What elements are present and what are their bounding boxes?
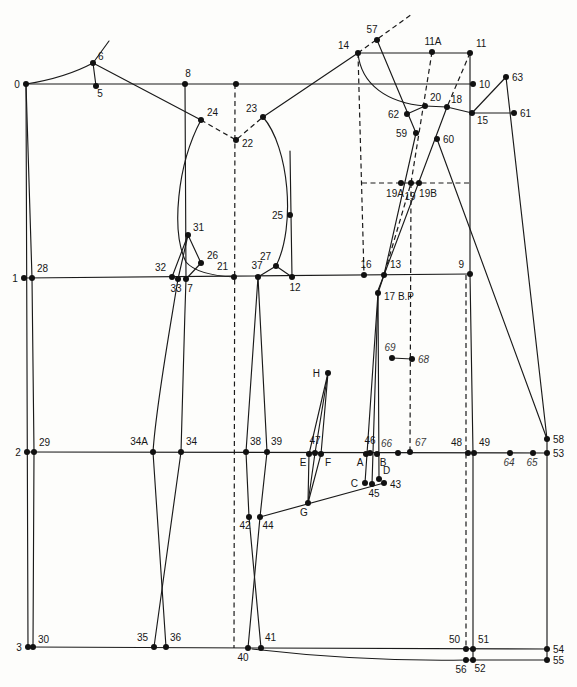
point-40-label: 40 [237, 652, 249, 663]
line-segment-69-68 [392, 358, 412, 359]
point-57-dot [374, 37, 380, 43]
point-29-dot [31, 449, 37, 455]
point-66-label: 66 [381, 438, 393, 449]
line-bust-line-1-9 [24, 274, 470, 278]
line-seam-44-40 [248, 517, 260, 648]
point-0-dot [23, 81, 29, 87]
point-C-dot [362, 480, 368, 486]
point-12-label: 12 [289, 282, 301, 293]
line-line-44-G-43 [260, 483, 384, 517]
point-50-label: 50 [449, 634, 461, 645]
point-5-label: 5 [97, 88, 103, 99]
point-25-dot [287, 212, 293, 218]
point-20-dot [422, 103, 428, 109]
point-1-dot [21, 275, 27, 281]
point-8-label: 8 [185, 68, 191, 79]
point-39-dot [264, 449, 270, 455]
point-48-dot [465, 450, 471, 456]
point-37-dot [255, 274, 261, 280]
point-45-label: 45 [368, 488, 380, 499]
point-30-label: 30 [38, 634, 50, 645]
line-shoulder-23-14 [263, 53, 358, 117]
point-45-dot [369, 481, 375, 487]
point-7-label: 7 [187, 283, 193, 294]
dashed-line-dart-dashed-24-22-23 [201, 117, 263, 140]
point-62-label: 62 [388, 109, 400, 120]
point-38-dot [243, 449, 249, 455]
point-2-label: 2 [15, 447, 21, 458]
point-A-label: A [357, 457, 364, 468]
point-G-label: G [300, 507, 308, 518]
point-35-dot [151, 644, 157, 650]
point-50-dot [463, 646, 469, 652]
point-30-dot [30, 644, 36, 650]
point-19B-dot [416, 180, 422, 186]
point-61-dot [511, 110, 517, 116]
point-35-label: 35 [137, 632, 149, 643]
line-dart-31-26 [188, 235, 201, 263]
point-41-dot [258, 645, 264, 651]
point-42-label: 42 [239, 520, 251, 531]
point-19-label: 19 [404, 191, 416, 202]
point-57-label: 57 [366, 24, 378, 35]
point-34A-label: 34A [130, 436, 148, 447]
point-16-label: 16 [360, 259, 372, 270]
point-8-dot [182, 81, 188, 87]
point-18-dot [444, 104, 450, 110]
point-0-label: 0 [14, 79, 20, 90]
point-C-label: C [351, 478, 358, 489]
point-52-label: 52 [474, 663, 486, 674]
point-41-label: 41 [265, 632, 277, 643]
line-dart-17-D [378, 293, 379, 479]
point-14-dot [355, 50, 361, 56]
line-segment-6-5 [93, 63, 96, 86]
point-38-label: 38 [250, 436, 262, 447]
dashed-line-center-dashed-vertical-22-21 [234, 84, 235, 648]
point-E-dot [306, 451, 312, 457]
point-55-dot [544, 657, 550, 663]
line-back-neck-curve-0-6 [26, 63, 93, 84]
point-3-label: 3 [16, 642, 22, 653]
line-seam-42-41 [249, 517, 261, 648]
point-11-label: 11 [476, 38, 487, 49]
point-66-dot [395, 450, 401, 456]
point-27-dot [273, 263, 279, 269]
point-49-label: 49 [479, 437, 491, 448]
point-54-label: 54 [553, 644, 565, 655]
point-47-label: 47 [309, 435, 321, 446]
point-63-label: 63 [512, 72, 524, 83]
point-21-label: 21 [217, 261, 229, 272]
point-24-dot [198, 117, 204, 123]
point-11-dot [467, 50, 473, 56]
point-53-dot [544, 450, 550, 456]
point-68-dot [409, 356, 415, 362]
point-51-label: 51 [478, 634, 490, 645]
point-69-dot [389, 355, 395, 361]
point-20-label: 20 [430, 92, 442, 103]
line-hem-curve-lower [252, 649, 547, 660]
point-F-label: F [325, 457, 331, 468]
point-59-label: 59 [396, 128, 408, 139]
point-34-label: 34 [186, 436, 198, 447]
point-13-dot [381, 272, 387, 278]
point-32-dot [169, 274, 175, 280]
point-1-label: 1 [12, 273, 18, 284]
point-46-dot [367, 450, 373, 456]
point-59-dot [413, 130, 419, 136]
point-64-dot [507, 450, 513, 456]
point-6-dot [90, 60, 96, 66]
point-61-label: 61 [520, 108, 532, 119]
line-seam-34A-36 [153, 452, 166, 647]
point-11A-label: 11A [424, 36, 441, 47]
line-dart-37-38 [246, 277, 258, 452]
point-31-label: 31 [193, 222, 205, 233]
point-24-label: 24 [207, 107, 219, 118]
point-49-dot [471, 450, 477, 456]
point-E-label: E [300, 457, 307, 468]
point-11A-dot [429, 49, 435, 55]
point-43-dot [381, 480, 387, 486]
point-21-dot [231, 274, 237, 280]
point-29-label: 29 [39, 437, 51, 448]
point-10-label: 10 [479, 79, 491, 90]
point-7-dot [183, 276, 189, 282]
